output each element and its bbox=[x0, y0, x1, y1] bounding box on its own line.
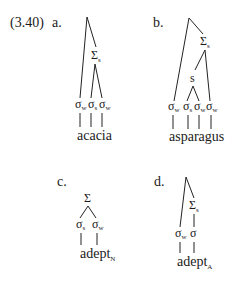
branch bbox=[87, 17, 96, 47]
syllable-node: σ bbox=[190, 226, 197, 240]
tree-a-label: a. bbox=[52, 15, 62, 30]
syllable-node: σs bbox=[183, 99, 192, 114]
syllable-node: σw bbox=[175, 226, 187, 241]
tree-d: d. Σs σw σ adeptA bbox=[154, 174, 212, 271]
syllable-node: σw bbox=[99, 97, 111, 112]
foot-node-sigma: Σs bbox=[91, 48, 101, 64]
syllable-node: σw bbox=[194, 99, 206, 114]
syllable-node: σw bbox=[75, 97, 87, 112]
foot-node-sigma: Σs bbox=[200, 34, 210, 50]
syllable-node: σs bbox=[76, 217, 85, 232]
word-adept-adjective: adeptA bbox=[177, 254, 212, 271]
syllable-node: σw bbox=[206, 99, 218, 114]
foot-node-sigma: Σs bbox=[189, 198, 199, 214]
example-number: (3.40) bbox=[10, 15, 44, 31]
syllable-node: σs bbox=[88, 97, 97, 112]
tree-c-label: c. bbox=[57, 174, 67, 189]
tree-c: c. Σ σs σw adeptN bbox=[57, 174, 115, 263]
branch bbox=[180, 177, 186, 227]
branch bbox=[91, 64, 95, 98]
word-asparagus: asparagus bbox=[169, 129, 224, 144]
inner-node-s: s bbox=[190, 71, 195, 85]
tree-d-label: d. bbox=[154, 174, 165, 189]
branch bbox=[95, 64, 102, 98]
syllable-node: σw bbox=[168, 99, 180, 114]
syllable-node: σw bbox=[92, 217, 104, 232]
foot-node-sigma: Σ bbox=[84, 191, 91, 205]
tree-b: b. Σs s σw σs σw σw asparagus bbox=[153, 15, 224, 144]
word-acacia: acacia bbox=[77, 128, 113, 143]
branch bbox=[205, 50, 210, 101]
word-adept-noun: adeptN bbox=[80, 246, 115, 263]
branch bbox=[80, 17, 87, 98]
prosodic-tree-diagram: (3.40) a. Σs σw σs σw acacia b. Σs s σw … bbox=[0, 0, 234, 283]
branch bbox=[186, 177, 194, 198]
branch bbox=[189, 18, 203, 34]
branch bbox=[174, 18, 189, 101]
branch bbox=[195, 50, 205, 70]
tree-b-label: b. bbox=[153, 15, 164, 30]
tree-a: (3.40) a. Σs σw σs σw acacia bbox=[10, 15, 113, 143]
